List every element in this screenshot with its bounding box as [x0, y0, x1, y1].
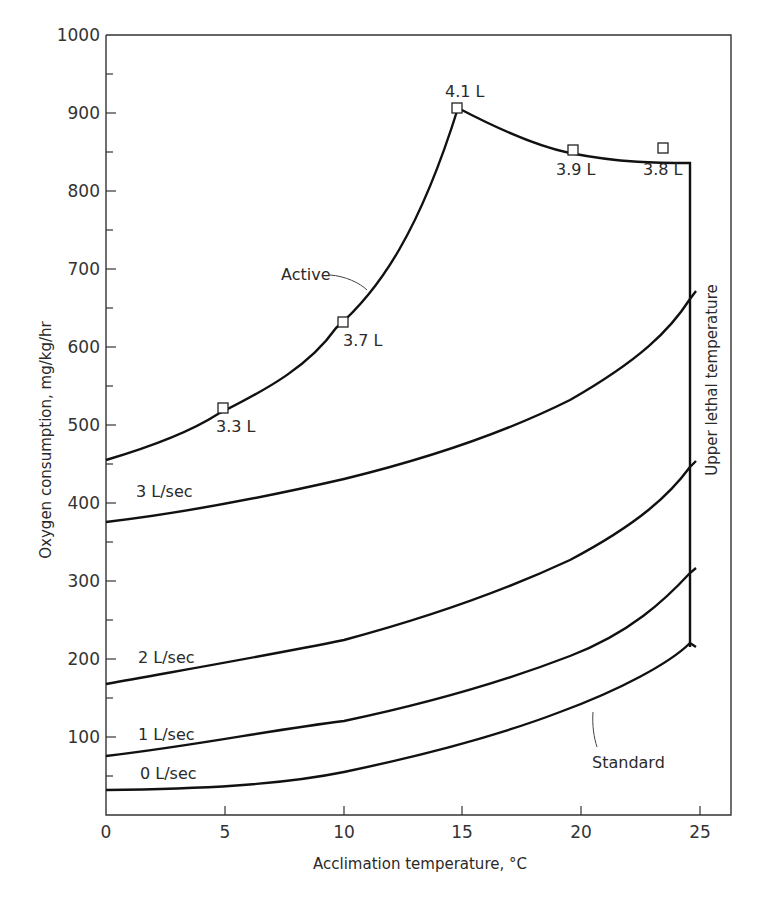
- x-tick-25: 25: [689, 822, 711, 842]
- label-upper-lethal-temperature: Upper lethal temperature: [703, 284, 721, 475]
- x-axis-ticks: [225, 806, 700, 815]
- marker-label-3-3L: 3.3 L: [216, 417, 256, 436]
- x-tick-0: 0: [101, 822, 112, 842]
- y-tick-200: 200: [68, 649, 100, 669]
- label-1-lps: 1 L/sec: [138, 725, 195, 744]
- x-axis-title: Acclimation temperature, °C: [313, 855, 527, 873]
- marker-3-8L: [658, 143, 668, 153]
- y-tick-1000: 1000: [57, 25, 100, 45]
- x-tick-15: 15: [451, 822, 473, 842]
- marker-label-4-1L: 4.1 L: [445, 82, 485, 101]
- y-tick-900: 900: [68, 103, 100, 123]
- y-tick-500: 500: [68, 415, 100, 435]
- label-3-lps: 3 L/sec: [136, 482, 193, 501]
- x-tick-5: 5: [220, 822, 231, 842]
- y-axis-title: Oxygen consumption, mg/kg/hr: [37, 320, 55, 558]
- oxygen-consumption-chart: 100 200 300 400 500 600 700 800 900 1000…: [0, 0, 762, 898]
- marker-label-3-7L: 3.7 L: [343, 331, 383, 350]
- y-tick-100: 100: [68, 727, 100, 747]
- marker-4-1L: [452, 103, 462, 113]
- marker-label-3-9L: 3.9 L: [556, 160, 596, 179]
- y-axis-ticks: [106, 74, 116, 776]
- curve-active: [106, 108, 690, 647]
- y-axis-labels: 100 200 300 400 500 600 700 800 900 1000: [57, 25, 100, 747]
- y-tick-600: 600: [68, 337, 100, 357]
- label-active: Active: [281, 265, 331, 284]
- x-axis-labels: 0 5 10 15 20 25: [101, 822, 711, 842]
- x-tick-20: 20: [570, 822, 592, 842]
- label-2-lps: 2 L/sec: [138, 648, 195, 667]
- marker-3-3L: [218, 403, 228, 413]
- marker-label-3-8L: 3.8 L: [643, 160, 683, 179]
- label-standard: Standard: [592, 753, 665, 772]
- curve-3-lps: [106, 291, 696, 522]
- marker-3-9L: [568, 145, 578, 155]
- x-tick-10: 10: [333, 822, 355, 842]
- active-leader-line: [330, 275, 367, 290]
- marker-3-7L: [338, 317, 348, 327]
- y-tick-400: 400: [68, 493, 100, 513]
- standard-leader-line: [593, 712, 597, 747]
- y-tick-700: 700: [68, 259, 100, 279]
- label-0-lps: 0 L/sec: [140, 764, 197, 783]
- y-tick-800: 800: [68, 181, 100, 201]
- y-tick-300: 300: [68, 571, 100, 591]
